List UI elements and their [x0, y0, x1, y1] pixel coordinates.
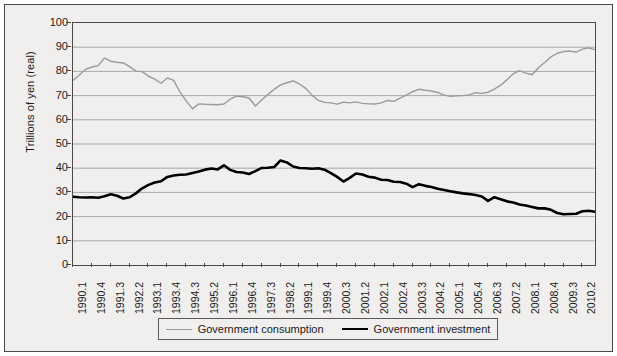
x-tick-label: 1996.1	[227, 282, 239, 314]
y-tick-mark	[66, 119, 71, 120]
chart-area: Trillions of yen (real) 1009080706050403…	[0, 0, 617, 356]
series-line-government-consumption	[73, 48, 595, 109]
x-tick-mark	[449, 263, 450, 267]
y-tick-label: 20	[38, 211, 68, 221]
legend-label-investment: Government investment	[374, 323, 491, 335]
y-tick-mark	[66, 167, 71, 168]
x-tick-label: 2008.1	[529, 282, 541, 314]
x-tick-mark	[280, 263, 281, 267]
x-tick-mark	[525, 263, 526, 267]
legend-label-consumption: Government consumption	[198, 323, 324, 335]
y-tick-mark	[66, 191, 71, 192]
y-tick-label: 50	[38, 138, 68, 148]
x-tick-label: 1998.2	[284, 282, 296, 314]
x-tick-label: 2004.2	[434, 282, 446, 314]
x-tick-label: 2008.4	[548, 282, 560, 314]
x-tick-label: 2002.4	[397, 282, 409, 314]
x-tick-label: 1995.2	[208, 282, 220, 314]
x-tick-label: 2009.3	[567, 282, 579, 314]
y-axis-ticks: 1009080706050403020100	[30, 0, 68, 356]
series-canvas	[73, 23, 595, 265]
y-tick-mark	[66, 143, 71, 144]
x-tick-label: 1999.4	[321, 282, 333, 314]
x-tick-mark	[563, 263, 564, 267]
x-tick-label: 1993.4	[170, 282, 182, 314]
legend-item-government-consumption: Government consumption	[166, 323, 324, 335]
x-tick-mark	[544, 263, 545, 267]
x-tick-mark	[374, 263, 375, 267]
x-tick-mark	[430, 263, 431, 267]
x-tick-mark	[412, 263, 413, 267]
x-tick-mark	[468, 263, 469, 267]
y-tick-mark	[66, 70, 71, 71]
y-tick-mark	[66, 95, 71, 96]
y-tick-mark	[66, 22, 71, 23]
x-tick-mark	[298, 263, 299, 267]
chart-legend: Government consumption Government invest…	[158, 318, 498, 340]
y-tick-mark	[66, 264, 71, 265]
chart-figure: Trillions of yen (real) 1009080706050403…	[0, 0, 617, 356]
x-tick-mark	[72, 263, 73, 267]
legend-item-government-investment: Government investment	[342, 323, 491, 335]
x-tick-label: 2000.3	[340, 282, 352, 314]
x-tick-mark	[317, 263, 318, 267]
x-tick-label: 2005.1	[453, 282, 465, 314]
x-tick-label: 2005.4	[472, 282, 484, 314]
y-tick-mark	[66, 240, 71, 241]
x-tick-mark	[204, 263, 205, 267]
x-tick-label: 2003.3	[416, 282, 428, 314]
x-tick-label: 1992.2	[133, 282, 145, 314]
x-tick-label: 1996.4	[246, 282, 258, 314]
y-tick-label: 90	[38, 41, 68, 51]
y-tick-mark	[66, 46, 71, 47]
x-tick-label: 2002.1	[378, 282, 390, 314]
legend-swatch-consumption-icon	[166, 329, 192, 330]
x-axis-ticks: 1990.11990.41991.31992.21993.11993.41994…	[72, 266, 596, 326]
x-tick-mark	[223, 263, 224, 267]
x-tick-mark	[393, 263, 394, 267]
x-tick-label: 2010.2	[585, 282, 597, 314]
x-tick-mark	[166, 263, 167, 267]
x-tick-mark	[355, 263, 356, 267]
x-tick-mark	[242, 263, 243, 267]
y-tick-label: 30	[38, 186, 68, 196]
x-tick-label: 1993.1	[151, 282, 163, 314]
y-tick-label: 100	[38, 17, 68, 27]
legend-swatch-investment-icon	[342, 328, 368, 330]
x-tick-mark	[129, 263, 130, 267]
x-tick-mark	[185, 263, 186, 267]
x-tick-mark	[110, 263, 111, 267]
x-tick-label: 1991.3	[114, 282, 126, 314]
x-tick-mark	[336, 263, 337, 267]
plot-area	[72, 22, 596, 266]
x-tick-label: 1990.1	[76, 282, 88, 314]
x-tick-label: 1990.4	[95, 282, 107, 314]
y-tick-label: 60	[38, 114, 68, 124]
x-tick-label: 2001.2	[359, 282, 371, 314]
x-tick-mark	[147, 263, 148, 267]
x-tick-label: 1997.3	[265, 282, 277, 314]
y-tick-label: 40	[38, 162, 68, 172]
x-tick-label: 1994.3	[189, 282, 201, 314]
y-tick-label: 80	[38, 65, 68, 75]
x-tick-mark	[487, 263, 488, 267]
x-tick-mark	[581, 263, 582, 267]
x-tick-label: 2006.3	[491, 282, 503, 314]
x-tick-label: 2007.2	[510, 282, 522, 314]
y-tick-mark	[66, 216, 71, 217]
x-tick-mark	[506, 263, 507, 267]
y-tick-label: 70	[38, 90, 68, 100]
y-tick-label: 10	[38, 235, 68, 245]
x-tick-mark	[261, 263, 262, 267]
x-tick-mark	[91, 263, 92, 267]
x-tick-label: 1999.1	[302, 282, 314, 314]
y-tick-label: 0	[38, 259, 68, 269]
